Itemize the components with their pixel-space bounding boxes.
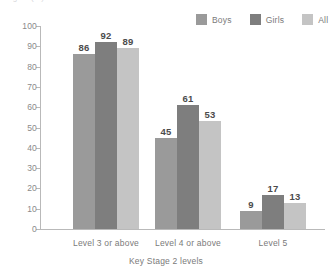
bar-group: 456153 bbox=[155, 105, 221, 229]
bar-value-label: 92 bbox=[101, 30, 112, 41]
bar-rect bbox=[262, 195, 284, 230]
bar-girls-2[interactable]: 61 bbox=[177, 105, 199, 229]
legend-item-all[interactable]: All bbox=[302, 14, 328, 25]
y-tick-label: 80 bbox=[27, 62, 37, 72]
x-axis-title: Key Stage 2 levels bbox=[129, 256, 203, 266]
y-tick-label: 90 bbox=[27, 41, 37, 51]
bar-rect bbox=[95, 42, 117, 229]
y-axis-line bbox=[40, 26, 41, 229]
x-axis-line bbox=[40, 229, 325, 230]
chart-title-remnant: ngths (%) bbox=[8, 0, 44, 2]
legend-swatch-icon bbox=[196, 14, 207, 25]
category-label-3: Level 5 bbox=[259, 238, 288, 248]
bar-rect bbox=[73, 54, 95, 229]
bar-boys-2[interactable]: 45 bbox=[155, 138, 177, 229]
y-tick-label: 50 bbox=[27, 123, 37, 133]
legend-label: Girls bbox=[266, 15, 284, 25]
plot-area: 0102030405060708090100 86928945615391713 bbox=[40, 26, 325, 229]
y-tick-label: 40 bbox=[27, 143, 37, 153]
bar-value-label: 45 bbox=[161, 126, 172, 137]
y-tick-label: 30 bbox=[27, 163, 37, 173]
y-tick-label: 70 bbox=[27, 82, 37, 92]
y-tick-label: 60 bbox=[27, 102, 37, 112]
bar-chart: ngths (%) BoysGirlsAll 01020304050607080… bbox=[0, 0, 333, 278]
y-tick-label: 10 bbox=[27, 204, 37, 214]
legend-swatch-icon bbox=[250, 14, 261, 25]
bar-rect bbox=[240, 211, 262, 229]
bar-rect bbox=[199, 121, 221, 229]
category-label-1: Level 3 or above bbox=[73, 238, 139, 248]
legend-item-boys[interactable]: Boys bbox=[196, 14, 232, 25]
y-tick-label: 0 bbox=[32, 224, 37, 234]
bar-all-1[interactable]: 89 bbox=[117, 48, 139, 229]
bar-value-label: 53 bbox=[205, 109, 216, 120]
bar-rect bbox=[177, 105, 199, 229]
bar-value-label: 9 bbox=[248, 199, 253, 210]
category-label-2: Level 4 or above bbox=[155, 238, 221, 248]
bar-all-2[interactable]: 53 bbox=[199, 121, 221, 229]
y-tick-label: 20 bbox=[27, 183, 37, 193]
bar-group: 869289 bbox=[73, 42, 139, 229]
bar-boys-3[interactable]: 9 bbox=[240, 211, 262, 229]
bar-group: 91713 bbox=[240, 195, 306, 230]
bar-all-3[interactable]: 13 bbox=[284, 203, 306, 229]
bar-value-label: 17 bbox=[268, 183, 279, 194]
bar-value-label: 13 bbox=[290, 191, 301, 202]
legend-swatch-icon bbox=[302, 14, 313, 25]
bar-rect bbox=[155, 138, 177, 229]
bar-value-label: 86 bbox=[79, 42, 90, 53]
legend-label: Boys bbox=[212, 15, 232, 25]
bar-rect bbox=[284, 203, 306, 229]
y-tick-label: 100 bbox=[22, 21, 37, 31]
bar-girls-3[interactable]: 17 bbox=[262, 195, 284, 230]
legend-item-girls[interactable]: Girls bbox=[250, 14, 284, 25]
bar-value-label: 89 bbox=[123, 36, 134, 47]
bar-girls-1[interactable]: 92 bbox=[95, 42, 117, 229]
bar-boys-1[interactable]: 86 bbox=[73, 54, 95, 229]
bar-value-label: 61 bbox=[183, 93, 194, 104]
legend-label: All bbox=[318, 15, 328, 25]
bar-rect bbox=[117, 48, 139, 229]
chart-legend: BoysGirlsAll bbox=[196, 14, 328, 25]
